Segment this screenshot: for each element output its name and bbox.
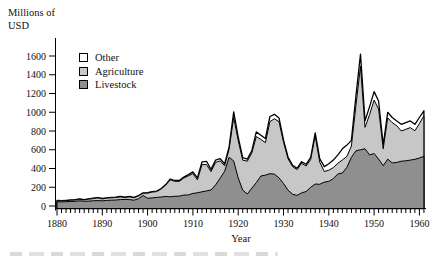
legend-item-livestock: Livestock bbox=[79, 78, 143, 92]
y-tick-label: 400 bbox=[31, 163, 46, 174]
y-tick-label: 800 bbox=[31, 126, 46, 137]
chart-canvas: 0200400600800100012001400160018801890190… bbox=[0, 0, 441, 259]
x-tick-label: 1950 bbox=[364, 218, 384, 229]
x-tick-label: 1880 bbox=[47, 218, 67, 229]
x-tick-label: 1910 bbox=[183, 218, 203, 229]
legend-label-other: Other bbox=[95, 52, 119, 63]
legend: Other Agriculture Livestock bbox=[79, 51, 143, 92]
y-axis-title-line1: Millions of bbox=[8, 6, 55, 19]
legend-item-agriculture: Agriculture bbox=[79, 65, 143, 79]
y-tick-label: 600 bbox=[31, 144, 46, 155]
x-tick-label: 1960 bbox=[409, 218, 429, 229]
legend-item-other: Other bbox=[79, 51, 143, 65]
x-tick-label: 1890 bbox=[92, 218, 112, 229]
x-tick-label: 1920 bbox=[228, 218, 248, 229]
y-axis-title: Millions of USD bbox=[8, 6, 55, 32]
x-tick-label: 1930 bbox=[274, 218, 294, 229]
x-axis-title: Year bbox=[57, 233, 425, 244]
legend-swatch-agriculture-icon bbox=[79, 67, 88, 76]
legend-swatch-other-icon bbox=[79, 53, 88, 62]
y-tick-label: 200 bbox=[31, 182, 46, 193]
legend-label-livestock: Livestock bbox=[95, 79, 136, 90]
y-axis-title-line2: USD bbox=[8, 19, 55, 32]
y-tick-label: 1000 bbox=[26, 107, 46, 118]
legend-label-agriculture: Agriculture bbox=[95, 66, 143, 77]
y-tick-label: 0 bbox=[41, 201, 46, 212]
x-tick-label: 1900 bbox=[138, 218, 158, 229]
cropped-caption-fragment bbox=[10, 252, 278, 256]
x-tick-label: 1940 bbox=[319, 218, 339, 229]
y-tick-label: 1400 bbox=[26, 69, 46, 80]
y-tick-label: 1200 bbox=[26, 88, 46, 99]
legend-swatch-livestock-icon bbox=[79, 80, 88, 89]
y-tick-label: 1600 bbox=[26, 51, 46, 62]
